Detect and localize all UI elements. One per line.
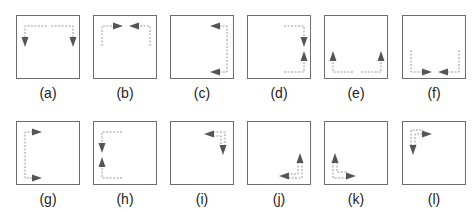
panel-b: (b)	[93, 15, 159, 107]
square-box	[93, 121, 157, 185]
arrow-down-icon	[220, 145, 227, 155]
path-diagram	[403, 16, 467, 80]
dashed-path	[213, 132, 225, 146]
panel-label: (l)	[402, 191, 466, 207]
square-box	[324, 121, 388, 185]
dashed-path	[25, 26, 47, 38]
panel-g: (g)	[16, 121, 82, 212]
arrow-down-icon	[301, 37, 308, 47]
dashed-path	[138, 26, 150, 46]
arrow-up-icon	[378, 51, 385, 61]
path-diagram	[325, 16, 389, 80]
panel-label: (d)	[247, 85, 311, 101]
path-diagram	[17, 16, 81, 80]
dashed-path	[284, 26, 304, 38]
panel-label: (c)	[170, 85, 234, 101]
panel-label: (h)	[93, 191, 157, 207]
panel-k: (k)	[324, 121, 390, 212]
panel-label: (i)	[170, 191, 234, 207]
square-box	[93, 15, 157, 79]
panel-label: (f)	[402, 85, 466, 101]
dashed-path	[213, 136, 221, 146]
dashed-path	[411, 50, 423, 72]
arrow-up-icon	[301, 51, 308, 61]
arrow-right-icon	[422, 131, 432, 138]
square-box	[402, 121, 466, 185]
dashed-path	[219, 26, 227, 72]
panel-label: (j)	[247, 191, 311, 207]
arrow-left-icon	[204, 131, 214, 138]
square-box	[170, 121, 234, 185]
arrow-left-icon	[438, 69, 448, 76]
panel-j: (j)	[247, 121, 313, 212]
arrow-left-icon	[279, 173, 289, 180]
panel-label: (k)	[324, 191, 388, 207]
path-diagram	[94, 16, 158, 80]
panel-label: (g)	[16, 191, 80, 207]
dashed-path	[411, 130, 423, 146]
square-box	[324, 15, 388, 79]
arrow-left-icon	[129, 23, 139, 30]
panel-label: (e)	[324, 85, 388, 101]
arrow-left-icon	[210, 23, 220, 30]
dashed-path	[333, 60, 353, 72]
dashed-path	[102, 166, 122, 178]
path-diagram	[171, 16, 235, 80]
arrow-up-icon	[99, 157, 106, 167]
arrow-right-icon	[346, 173, 356, 180]
panel-a: (a)	[16, 15, 82, 107]
dashed-path	[415, 134, 423, 146]
panel-e: (e)	[324, 15, 390, 107]
panel-i: (i)	[170, 121, 236, 212]
arrow-left-icon	[210, 69, 220, 76]
panel-h: (h)	[93, 121, 159, 212]
square-box	[247, 15, 311, 79]
arrow-down-icon	[70, 37, 77, 47]
arrow-up-icon	[297, 153, 304, 163]
arrow-up-icon	[332, 153, 339, 163]
panel-f: (f)	[402, 15, 468, 107]
arrow-right-icon	[32, 129, 42, 136]
dashed-path	[284, 60, 304, 72]
path-diagram	[403, 122, 467, 186]
panel-label: (a)	[16, 85, 80, 101]
panel-label: (b)	[93, 85, 157, 101]
dashed-path	[102, 132, 122, 144]
dashed-path	[447, 50, 459, 72]
dashed-path	[51, 26, 73, 38]
arrow-down-icon	[410, 145, 417, 155]
square-box	[16, 121, 80, 185]
square-box	[402, 15, 466, 79]
arrow-down-icon	[22, 37, 29, 47]
arrow-up-icon	[330, 51, 337, 61]
path-diagram	[94, 122, 158, 186]
panel-d: (d)	[247, 15, 313, 107]
arrow-right-icon	[113, 23, 123, 30]
panel-l: (l)	[402, 121, 468, 212]
path-diagram	[325, 122, 389, 186]
dashed-path	[361, 60, 381, 72]
square-box	[170, 15, 234, 79]
dashed-path	[25, 132, 33, 178]
dashed-path	[333, 162, 347, 178]
dashed-path	[288, 162, 302, 178]
path-diagram	[248, 16, 312, 80]
path-diagram	[171, 122, 235, 186]
dashed-path	[102, 26, 114, 46]
square-box	[247, 121, 311, 185]
arrow-right-icon	[422, 69, 432, 76]
path-diagram	[248, 122, 312, 186]
arrow-right-icon	[32, 175, 42, 182]
panel-c: (c)	[170, 15, 236, 107]
path-diagram	[17, 122, 81, 186]
dashed-path	[288, 162, 298, 174]
arrow-down-icon	[99, 143, 106, 153]
square-box	[16, 15, 80, 79]
dashed-path	[337, 162, 347, 172]
